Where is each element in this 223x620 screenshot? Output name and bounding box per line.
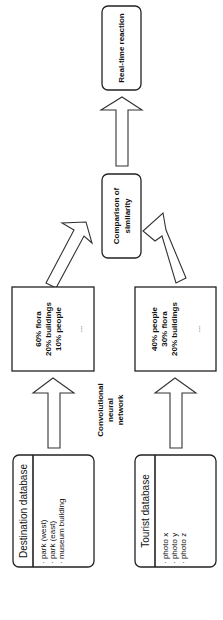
tourist-database-item-2: · photo y xyxy=(170,533,179,564)
reaction-label: Real-time reaction xyxy=(117,13,126,82)
tourist-database-item-1: · photo x xyxy=(161,533,170,564)
arrow-destination-to-comparison xyxy=(46,222,92,288)
arrow-comparison-to-reaction xyxy=(101,97,142,166)
destination-database: Destination database · park (west) · par… xyxy=(13,455,94,567)
comparison-node: Comparison of similarity xyxy=(102,174,141,258)
arrow-destination-db-to-result xyxy=(33,378,74,448)
tourist-database-item-3: · photo z xyxy=(179,533,188,564)
reaction-node: Real-time reaction xyxy=(102,6,141,90)
destination-result-node: 60% flora 20% buildings 10% people ... xyxy=(12,287,94,371)
destination-result-line-3: 10% people xyxy=(54,306,63,351)
destination-result-ellipsis: ... xyxy=(75,326,84,333)
destination-result-line-2: 20% buildings xyxy=(44,302,53,356)
destination-database-title: Destination database xyxy=(18,464,29,558)
tourist-result-line-3: 20% buildings xyxy=(170,302,179,356)
comparison-box xyxy=(102,174,141,258)
arrow-tourist-to-comparison xyxy=(143,213,186,283)
arrow-tourist-db-to-result xyxy=(155,378,196,448)
destination-database-item-2: · park (east) xyxy=(48,521,57,564)
cnn-label-line-1: Convolutional xyxy=(96,383,105,436)
cnn-label-line-3: network xyxy=(116,394,125,425)
destination-result-line-1: 60% flora xyxy=(34,311,43,347)
tourist-database-title: Tourist database xyxy=(140,474,151,548)
cnn-label-line-2: neural xyxy=(106,398,115,422)
tourist-result-node: 40% people 30% flora 20% buildings ... xyxy=(135,287,216,371)
tourist-result-line-1: 40% people xyxy=(150,306,159,351)
destination-database-item-3: · museum building xyxy=(57,499,66,564)
comparison-line-2: similarity xyxy=(123,198,132,234)
tourist-database: Tourist database · photo x · photo y · p… xyxy=(135,455,216,567)
tourist-result-line-2: 30% flora xyxy=(160,311,169,347)
destination-database-item-1: · park (west) xyxy=(39,519,48,564)
cnn-label: Convolutional neural network xyxy=(96,383,125,436)
diagram-canvas: Real-time reaction Comparison of similar… xyxy=(0,0,223,620)
comparison-line-1: Comparison of xyxy=(112,187,121,244)
tourist-result-ellipsis: ... xyxy=(193,326,202,333)
